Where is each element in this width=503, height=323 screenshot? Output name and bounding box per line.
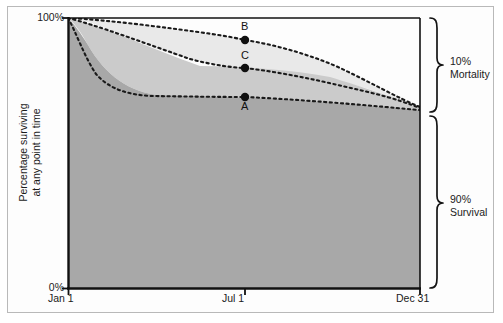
mortality-word: Mortality [450, 68, 490, 80]
brace-label-survival: 90% Survival [450, 193, 487, 218]
survival-word: Survival [450, 206, 487, 218]
x-axis-tick-label-dec-31: Dec 31 [396, 292, 429, 304]
brace-mortality [430, 18, 443, 112]
data-point-c[interactable] [241, 64, 249, 72]
plot-canvas [0, 0, 503, 323]
brace-survival [430, 116, 443, 288]
survival-curve-figure: 100% 0% Jan 1 Jul 1 Dec 31 Percentage su… [0, 0, 503, 323]
mortality-percent: 10% [450, 55, 471, 67]
y-axis-tick-label-100: 100% [18, 12, 64, 23]
y-axis-title: Percentage surviving at any point in tim… [17, 63, 42, 243]
y-axis-title-line-1: Percentage surviving [17, 63, 30, 243]
brace-label-mortality: 10% Mortality [450, 55, 490, 80]
data-point-b[interactable] [241, 36, 249, 44]
x-axis-tick-label-jul-1: Jul 1 [222, 292, 244, 304]
survival-percent: 90% [450, 193, 471, 205]
x-axis-tick-label-jan-1: Jan 1 [48, 292, 74, 304]
y-axis-title-line-2: at any point in time [29, 63, 42, 243]
point-label-b: B [241, 21, 248, 32]
point-label-c: C [241, 50, 249, 61]
point-label-a: A [241, 101, 248, 112]
